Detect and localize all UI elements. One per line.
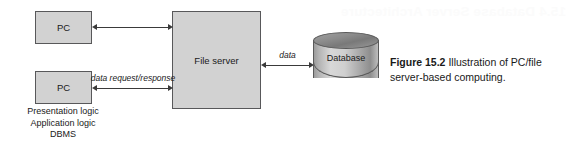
arrow-file-server-to-database: [261, 61, 314, 70]
node-pc-bottom: PC: [35, 71, 92, 104]
node-pc-top: PC: [35, 11, 92, 44]
node-pc-bottom-label: PC: [57, 82, 70, 93]
node-pc-top-label: PC: [57, 22, 70, 33]
client-software-stack: Presentation logic Application logic DBM…: [0, 106, 126, 141]
arrow-shaft: [96, 27, 169, 28]
figure-caption-number: Figure 15.2: [390, 56, 445, 68]
page-bleedthrough-ghost-text: 15.4 Database Server Architecture: [296, 4, 566, 22]
figure-caption: Figure 15.2 Illustration of PC/file serv…: [390, 55, 570, 85]
client-stack-line-application-logic: Application logic: [0, 118, 126, 130]
arrowhead-right-icon: [168, 85, 173, 91]
node-database-cylinder: Database: [313, 32, 379, 86]
cylinder-top-ellipse-shape: [313, 32, 379, 49]
arrow-shaft: [96, 88, 169, 89]
figure-pc-file-server-computing: 15.4 Database Server Architecture PC PC …: [0, 0, 575, 143]
arrow-shaft: [265, 65, 310, 66]
arrowhead-right-icon: [168, 24, 173, 30]
node-database-label: Database: [313, 53, 379, 63]
edge-label-data: data: [261, 50, 314, 60]
client-stack-line-dbms: DBMS: [0, 129, 126, 141]
arrow-pc-top-to-file-server: [92, 23, 173, 32]
node-file-server-label: File server: [194, 55, 238, 66]
edge-label-data-request-response: data request/response: [88, 73, 178, 83]
arrow-pc-bottom-to-file-server: [92, 84, 173, 93]
node-file-server: File server: [172, 11, 261, 109]
client-stack-line-presentation-logic: Presentation logic: [0, 106, 126, 118]
